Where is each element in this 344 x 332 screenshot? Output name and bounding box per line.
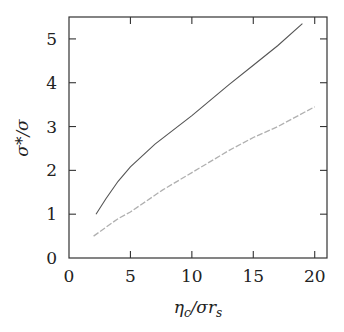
x-tick-label: 10 [181, 266, 203, 286]
x-tick-label: 5 [125, 266, 136, 286]
x-tick-label: 0 [64, 266, 75, 286]
y-tick-label: 5 [46, 29, 57, 49]
y-axis-label: σ*/σ [12, 119, 32, 157]
x-tick-label: 15 [242, 266, 264, 286]
data-series [94, 24, 315, 237]
x-tick-label: 20 [304, 266, 326, 286]
y-axis-ticks: 012345 [46, 29, 327, 268]
x-axis-label: ηc/σrs [174, 297, 223, 320]
y-tick-label: 2 [46, 160, 57, 180]
y-tick-label: 4 [46, 73, 57, 93]
plot-frame [69, 17, 327, 258]
y-tick-label: 0 [46, 248, 57, 268]
x-axis-ticks: 05101520 [64, 17, 326, 286]
y-tick-label: 1 [46, 204, 57, 224]
series-upper-line [96, 24, 302, 215]
line-chart: 05101520 012345 ηc/σrs σ*/σ [0, 0, 344, 332]
y-tick-label: 3 [46, 117, 57, 137]
